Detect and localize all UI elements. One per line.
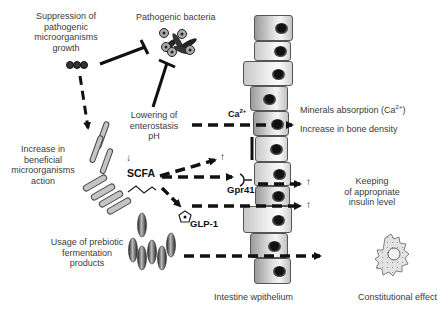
- bone-density-label: Increase in bone density: [300, 124, 398, 135]
- ca-label: Ca2+: [228, 106, 246, 120]
- scfa-label: SCFA: [127, 168, 155, 179]
- intestine-epithelium-label: Intestine wpithelium: [214, 292, 293, 303]
- up-arrow-gpr41: ↑: [306, 177, 311, 188]
- usage-prebiotic-label: Usage of prebiotic fermentation products: [47, 237, 127, 269]
- constitutional-effect-label: Constitutional effect: [358, 292, 437, 303]
- gpr41-label: Gpr41: [227, 185, 254, 196]
- insulin-label: Keeping of appropriate insulin level: [332, 176, 412, 208]
- up-arrow-glp1: ↑: [306, 200, 311, 211]
- prebiotic-products-icon: [129, 213, 176, 270]
- prebiotic-beads-icon: [67, 62, 88, 69]
- suppression-label: Suppression of pathogenic microorganisms…: [26, 11, 106, 53]
- scfa-down-arrow: ↓: [126, 153, 131, 164]
- pathogenic-bacteria-label: Pathogenic bacteria: [136, 12, 216, 23]
- lowering-ph-label: Lowering of enterostasis pH: [124, 110, 184, 142]
- constitutional-cell-icon: [375, 234, 409, 276]
- minerals-absorption-label: Minerals absorption (Ca2+): [300, 102, 405, 116]
- scfa-chain-icon: [128, 186, 156, 193]
- pathogenic-bacteria-icon: [160, 29, 199, 57]
- increase-beneficial-label: Increase in beneficial microorganisms ac…: [8, 144, 78, 186]
- glp1-label: GLP-1: [190, 219, 218, 230]
- up-arrow-scfa: ↑: [220, 152, 225, 163]
